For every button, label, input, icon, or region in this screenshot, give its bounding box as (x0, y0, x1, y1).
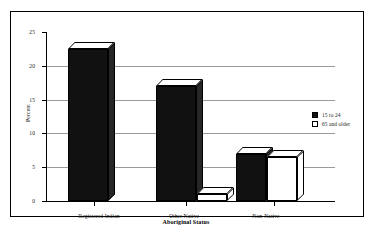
bar-side-face (297, 150, 304, 201)
chart-legend: 15 to 24 65 and older (312, 111, 350, 129)
y-tick-10: 10 (42, 133, 46, 134)
x-tick-other-native (186, 201, 187, 206)
bar-front-face (236, 154, 266, 201)
bar-other-native-65-and-older[interactable] (197, 194, 227, 201)
y-tick-label-15: 15 (29, 97, 35, 103)
x-category-label-registered-indian: Registered Indian (78, 213, 119, 219)
y-tick-0: 0 (42, 201, 46, 202)
x-axis-line (46, 201, 335, 202)
figure-canvas: 25 20 15 10 5 0 (0, 0, 376, 230)
y-tick-label-20: 20 (29, 63, 35, 69)
legend-label-65-and-older: 65 and older (322, 121, 350, 127)
x-tick-registered-indian (94, 201, 95, 206)
legend-item-15-to-24[interactable]: 15 to 24 (312, 111, 350, 119)
bar-front-face (68, 49, 108, 201)
y-tick-label-0: 0 (32, 198, 35, 204)
bar-non-native-65-and-older[interactable] (267, 157, 297, 201)
x-axis-title: Aboriginal Status (163, 219, 210, 225)
legend-label-15-to-24: 15 to 24 (322, 112, 340, 118)
y-axis-line (46, 32, 47, 201)
y-tick-25: 25 (42, 32, 46, 33)
bar-front-face (267, 157, 297, 201)
legend-swatch-open-square-icon (312, 121, 318, 127)
x-tick-non-native (274, 201, 275, 206)
y-tick-label-10: 10 (29, 130, 35, 136)
y-tick-15: 15 (42, 100, 46, 101)
bar-front-face (197, 194, 227, 201)
bar-front-face (156, 86, 196, 201)
bar-side-face (196, 79, 203, 201)
y-tick-5: 5 (42, 167, 46, 168)
plot-area: 25 20 15 10 5 0 (46, 32, 326, 201)
legend-item-65-and-older[interactable]: 65 and older (312, 120, 350, 128)
y-tick-20: 20 (42, 66, 46, 67)
y-tick-label-25: 25 (29, 29, 35, 35)
bar-other-native-15-to-24[interactable] (156, 86, 196, 201)
bar-side-face (108, 42, 115, 201)
y-axis-title: Percent (25, 104, 31, 122)
legend-swatch-filled-square-icon (312, 112, 318, 118)
figure-frame: 25 20 15 10 5 0 (10, 11, 364, 217)
bar-non-native-15-to-24[interactable] (236, 154, 266, 201)
bar-registered-indian-15-to-24[interactable] (68, 49, 108, 201)
y-tick-label-5: 5 (32, 164, 35, 170)
x-category-label-non-native: Non-Native (252, 213, 279, 219)
